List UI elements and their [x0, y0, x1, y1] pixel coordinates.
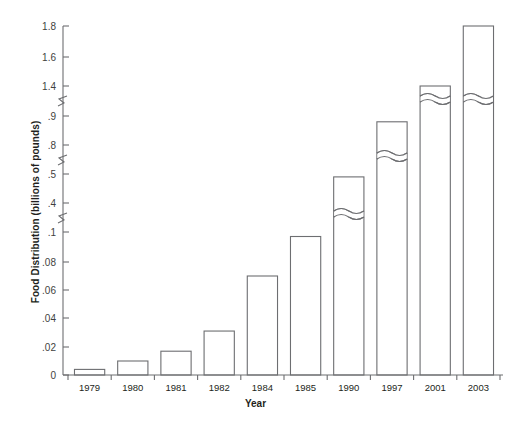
y-tick-label: .04: [42, 313, 56, 324]
bar: [247, 276, 277, 375]
bar: [118, 361, 148, 375]
bar: [204, 331, 234, 375]
y-tick-label: .06: [42, 285, 56, 296]
chart-figure: Food Distribution (billions of pounds) Y…: [0, 0, 511, 424]
y-tick-label: 1.8: [42, 21, 56, 32]
x-tick-label: 1982: [209, 382, 230, 393]
bar: [463, 26, 493, 375]
bar: [290, 237, 320, 376]
bar: [161, 351, 191, 375]
bar-chart-plot: 0.02.04.06.08.1.4.5.8.91.41.61.819791980…: [0, 0, 511, 424]
bar: [420, 86, 450, 375]
y-tick-label: .1: [48, 227, 57, 238]
y-tick-label: 1.4: [42, 81, 56, 92]
y-tick-label: .8: [48, 140, 57, 151]
x-tick-label: 1990: [338, 382, 359, 393]
x-tick-label: 1980: [122, 382, 143, 393]
x-tick-label: 1981: [165, 382, 186, 393]
x-tick-label: 1985: [295, 382, 316, 393]
x-tick-label: 1979: [79, 382, 100, 393]
x-tick-label: 2001: [425, 382, 446, 393]
y-tick-label: .5: [48, 169, 57, 180]
y-tick-label: 1.6: [42, 52, 56, 63]
bar: [377, 122, 407, 375]
bar: [334, 177, 364, 375]
y-tick-label: .4: [48, 198, 57, 209]
y-tick-label: .9: [48, 111, 57, 122]
y-tick-label: .08: [42, 257, 56, 268]
y-tick-label: .02: [42, 342, 56, 353]
bar: [74, 369, 104, 375]
x-tick-label: 2003: [468, 382, 489, 393]
x-tick-label: 1997: [381, 382, 402, 393]
y-tick-label: 0: [50, 370, 56, 381]
x-tick-label: 1984: [252, 382, 273, 393]
